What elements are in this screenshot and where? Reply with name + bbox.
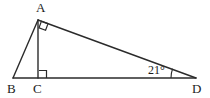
geometry-figure: A B C D 21° (0, 0, 210, 98)
vertex-label-a: A (36, 1, 45, 14)
angle-arc-D (171, 69, 173, 78)
vertex-label-b: B (7, 82, 16, 95)
angle-measure-label-d: 21° (148, 64, 165, 76)
vertex-label-d: D (192, 82, 201, 95)
vertex-label-c: C (33, 82, 42, 95)
right-angle-marker-A (39, 21, 48, 30)
right-angle-marker-C (39, 71, 47, 79)
triangle-diagram (0, 0, 210, 98)
segment-AB (13, 20, 38, 78)
